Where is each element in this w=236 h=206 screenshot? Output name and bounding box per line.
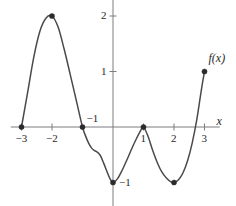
y-tick-label-1: 1 [101, 66, 107, 77]
marked-point-5 [171, 180, 176, 185]
marked-point-6 [202, 69, 207, 74]
x-tick-label-1: 1 [141, 133, 147, 144]
x-tick-label-neg2: −2 [46, 133, 58, 144]
x-tick-label-neg3: −3 [16, 133, 28, 144]
x-tick-label-3: 3 [202, 133, 208, 144]
function-graph-figure: −3 −2 1 2 3 1 2 −1 −1 f(x) x [0, 0, 236, 206]
marked-point-0 [19, 124, 24, 129]
curve-label-fx: f(x) [209, 52, 226, 64]
marked-point-1 [49, 13, 54, 18]
x-tick-label-2: 2 [171, 133, 177, 144]
label-neg1-x-intercept: −1 [87, 113, 99, 124]
graph-canvas [0, 0, 236, 206]
marked-point-4 [141, 124, 146, 129]
y-tick-label-2: 2 [101, 10, 107, 21]
marked-point-3 [110, 180, 115, 185]
marked-point-2 [80, 124, 85, 129]
x-axis-label: x [217, 115, 222, 127]
axes-group [11, 0, 220, 206]
label-neg1-minimum: −1 [119, 177, 131, 188]
